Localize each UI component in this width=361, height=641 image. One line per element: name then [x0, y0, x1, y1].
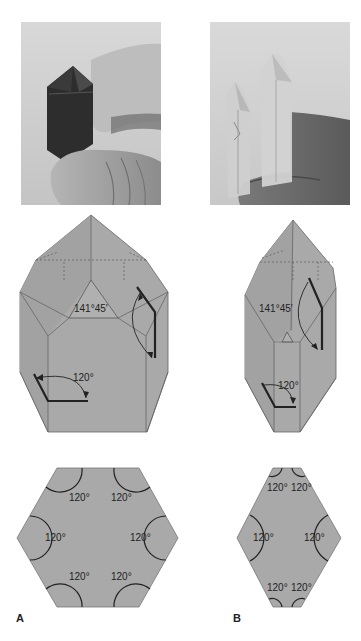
hex-b-angle-1: 120° [267, 482, 288, 493]
hex-a-angle-4: 120° [130, 532, 151, 543]
hex-b-angle-3: 120° [253, 532, 274, 543]
crystal-b-prism-angle: 141°45′ [259, 303, 293, 314]
hex-b-angle-5: 120° [267, 582, 288, 593]
crystal-b-interfacial-angle: 120° [278, 380, 299, 391]
hex-a-angle-1: 120° [69, 492, 90, 503]
panel-label-a: A [16, 612, 24, 624]
cross-section-b: 120° 120° 120° 120° 120° 120° [237, 468, 341, 607]
hex-a-angle-6: 120° [111, 571, 132, 582]
crystal-b-diagram: 141°45′ 120° [245, 220, 336, 432]
hex-b-angle-4: 120° [304, 532, 325, 543]
hex-b-angle-6: 120° [291, 582, 312, 593]
crystal-a-prism-angle: 141°45′ [74, 303, 108, 314]
hex-a-angle-3: 120° [45, 532, 66, 543]
panel-label-b: B [233, 612, 241, 624]
cross-section-a: 120° 120° 120° 120° 120° 120° [17, 468, 178, 607]
crystal-diagrams: 141°45′ 120° 14 [0, 0, 361, 641]
hex-a-angle-2: 120° [111, 492, 132, 503]
hex-a-angle-5: 120° [69, 571, 90, 582]
crystal-a-diagram: 141°45′ 120° [20, 215, 168, 432]
crystal-a-interfacial-angle: 120° [73, 372, 94, 383]
hex-b-angle-2: 120° [291, 482, 312, 493]
